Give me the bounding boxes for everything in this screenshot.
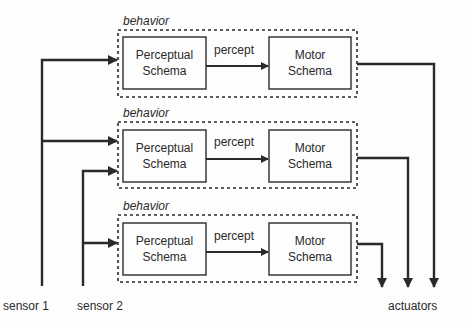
motor-schema-3: MotorSchema [269, 223, 351, 275]
percept-label-1: percept [214, 43, 254, 57]
actuator-wiring [357, 64, 434, 287]
motor-schema-3-line2: Schema [288, 249, 332, 265]
perceptual-schema-1: PerceptualSchema [123, 37, 206, 89]
sensor-2-label: sensor 2 [77, 299, 123, 313]
motor-schema-2: MotorSchema [269, 130, 351, 182]
perceptual-schema-2: PerceptualSchema [123, 130, 206, 182]
behavior-1-label: behavior [123, 14, 169, 28]
perceptual-schema-3-line1: Perceptual [136, 233, 193, 249]
behavior-3-label: behavior [123, 199, 169, 213]
actuators-label: actuators [388, 299, 437, 313]
motor-schema-1-line1: Motor [288, 47, 332, 63]
motor-schema-2-line1: Motor [288, 140, 332, 156]
perceptual-schema-3: PerceptualSchema [123, 223, 206, 275]
motor-schema-3-line1: Motor [288, 233, 332, 249]
perceptual-schema-3-line2: Schema [136, 249, 193, 265]
percept-label-3: percept [214, 229, 254, 243]
motor-schema-1-line2: Schema [288, 63, 332, 79]
motor-schema-1: MotorSchema [269, 37, 351, 89]
perceptual-schema-2-line1: Perceptual [136, 140, 193, 156]
percept-label-2: percept [214, 135, 254, 149]
motor-schema-2-line2: Schema [288, 156, 332, 172]
behavior-2-label: behavior [123, 106, 169, 120]
sensor-2-wiring [83, 171, 117, 286]
perceptual-schema-1-line2: Schema [136, 63, 193, 79]
perceptual-schema-1-line1: Perceptual [136, 47, 193, 63]
sensor-1-wiring [42, 60, 117, 286]
perceptual-schema-2-line2: Schema [136, 156, 193, 172]
sensor-1-label: sensor 1 [3, 299, 49, 313]
